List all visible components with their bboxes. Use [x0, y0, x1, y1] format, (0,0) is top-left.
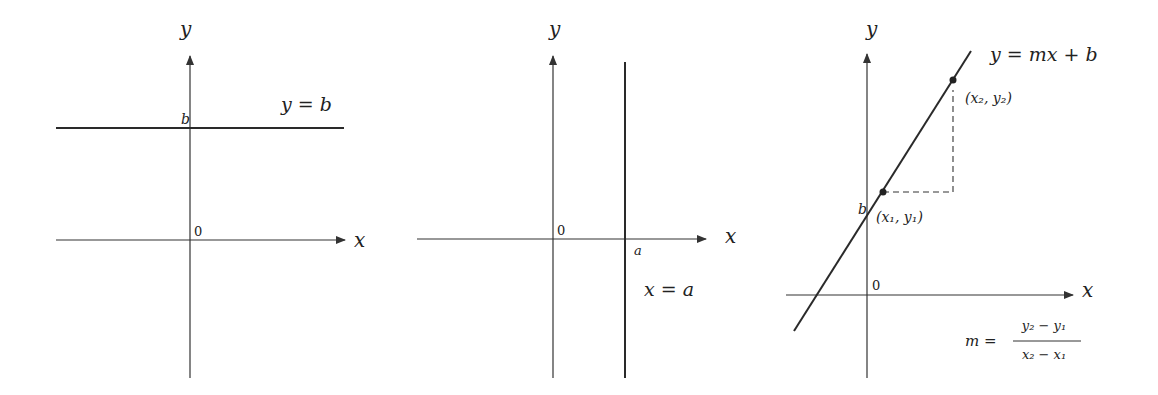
slope-formula-denominator: x₂ − x₁ [1022, 347, 1066, 362]
y-axis-label: y [179, 17, 192, 41]
intercept-label: b [858, 201, 867, 217]
x-axis-label: x [1082, 278, 1093, 302]
x-axis-label: x [725, 224, 736, 248]
x-axis-label: x [354, 228, 365, 252]
origin-label: 0 [872, 278, 880, 293]
equation-label: y = b [280, 93, 332, 115]
y-axis-label: y [548, 17, 561, 41]
point-2 [950, 77, 957, 84]
point-2-label: (x₂, y₂) [965, 90, 1012, 106]
point-1-label: (x₁, y₁) [876, 209, 923, 225]
panel-horizontal-line: y x 0 b y = b [56, 17, 365, 378]
line-equations-diagram: y x 0 b y = b y x 0 a x = a y x 0 b y = … [0, 0, 1158, 395]
origin-label: 0 [557, 223, 565, 238]
equation-label: x = a [644, 278, 694, 300]
slope-formula-numerator: y₂ − y₁ [1021, 318, 1066, 333]
y-axis-label: y [865, 17, 878, 41]
slope-formula-lhs: m = [965, 332, 997, 350]
intercept-label: b [181, 111, 190, 127]
panel-vertical-line: y x 0 a x = a [417, 17, 736, 378]
intercept-label: a [634, 243, 642, 258]
point-1 [880, 189, 887, 196]
origin-label: 0 [194, 224, 202, 239]
rise-run-guide [883, 90, 953, 192]
equation-label: y = mx + b [989, 43, 1098, 65]
panel-slope-intercept-line: y x 0 b y = mx + b (x₁, y₁) (x₂, y₂) m =… [786, 17, 1098, 378]
